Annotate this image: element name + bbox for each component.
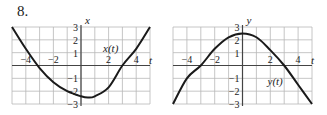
value-tick-label: 2: [73, 35, 78, 46]
t-tick-label: 2: [268, 54, 273, 65]
value-tick-label: −3: [67, 99, 78, 110]
value-tick-label: −2: [229, 86, 240, 97]
function-label: x(t): [102, 42, 119, 55]
t-tick-label: 4: [296, 54, 301, 65]
t-tick-label: −2: [209, 54, 220, 65]
value-tick-label: −3: [229, 99, 240, 110]
plot-yt: −4−224321−1−2−3tyy(t): [173, 14, 315, 110]
value-tick-label: 3: [73, 22, 78, 33]
t-axis-label: t: [311, 54, 315, 66]
value-tick-label: 3: [235, 22, 240, 33]
t-tick-label: −4: [182, 54, 193, 65]
t-tick-label: 2: [106, 54, 111, 65]
value-axis-label: y: [246, 14, 252, 26]
chart-area: −4−224321−1−2−3txx(t)−4−224321−1−2−3tyy(…: [0, 0, 327, 115]
value-tick-label: −1: [229, 73, 240, 84]
value-tick-label: 1: [73, 48, 78, 59]
function-label: y(t): [267, 75, 284, 88]
t-axis-label: t: [149, 54, 153, 66]
value-tick-label: 2: [235, 35, 240, 46]
t-tick-label: −2: [48, 54, 59, 65]
plot-xt: −4−224321−1−2−3txx(t): [12, 14, 153, 110]
value-tick-label: 1: [235, 48, 240, 59]
t-tick-label: 4: [134, 54, 139, 65]
value-axis-label: x: [84, 14, 90, 26]
value-tick-label: −1: [67, 73, 78, 84]
